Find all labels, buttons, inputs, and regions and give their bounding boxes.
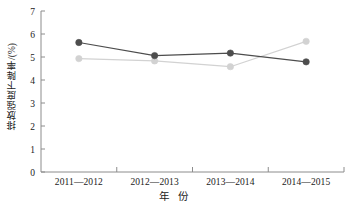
data-point-marker (227, 63, 233, 69)
x-axis-category-label: 2011—2012 (55, 177, 103, 187)
data-point-marker (76, 39, 82, 45)
y-axis-tick-label: 7 (30, 7, 35, 17)
x-axis-category-label: 2012—2013 (130, 177, 179, 187)
y-axis-tick-label: 1 (30, 145, 35, 155)
emission-intensity-line-chart: 排放强度下降率/(%) 012345672011—20122012—201320… (0, 0, 350, 212)
y-axis-tick-label: 5 (30, 53, 35, 63)
chart-plot-area: 012345672011—20122012—20132013—20142014—… (0, 0, 350, 212)
x-axis-category-label: 2014—2015 (282, 177, 331, 187)
x-axis-title: 年 份 (0, 188, 350, 203)
y-axis-tick-label: 4 (30, 76, 35, 86)
y-axis-tick-label: 2 (30, 122, 35, 132)
data-point-marker (303, 38, 309, 44)
data-point-marker (151, 52, 157, 58)
y-axis-tick-label: 6 (30, 30, 35, 40)
data-point-marker (76, 55, 82, 61)
y-axis-tick-label: 0 (30, 168, 35, 178)
data-point-marker (227, 50, 233, 56)
data-point-marker (303, 59, 309, 65)
x-axis-category-label: 2013—2014 (206, 177, 255, 187)
y-axis-tick-label: 3 (30, 99, 35, 109)
